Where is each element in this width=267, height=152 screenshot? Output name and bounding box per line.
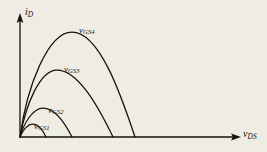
y-axis-label: iD (25, 7, 33, 18)
curve-label-vgs4: vGS4 (79, 26, 95, 36)
curve-label-vgs3: vGS3 (64, 65, 80, 75)
y-axis-label-subscript: D (28, 10, 33, 19)
curve-label-vgs4-subscript: GS4 (83, 28, 95, 35)
curve-label-vgs3-subscript: GS3 (68, 67, 80, 74)
x-axis-label-subscript: DS (247, 132, 256, 141)
curve-label-vgs2-subscript: GS2 (52, 108, 64, 115)
characteristic-curves-figure: iD vDS vGS4 vGS3 vGS2 vGS1 (0, 0, 267, 152)
x-axis-label: vDS (243, 129, 257, 140)
curve-label-vgs1: vGS1 (34, 122, 50, 132)
curve-label-vgs1-subscript: GS1 (38, 124, 50, 131)
curve-label-vgs2: vGS2 (48, 106, 64, 116)
